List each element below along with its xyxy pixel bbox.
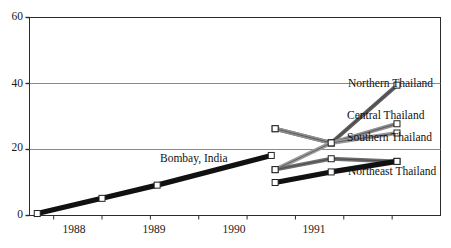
chart-container: 0 20 40 60 1988 1989 1990 1991 Bombay, I… [0,0,451,248]
data-point-marker [34,211,40,217]
data-point-marker [268,152,274,158]
x-axis-tick-1988: 1988 [44,223,104,235]
series-label-northeast: Northeast Thailand [348,165,436,177]
y-axis-tick-60: 60 [1,11,23,22]
data-point-marker [272,167,278,173]
data-point-marker [99,195,105,201]
y-axis-tick-0: 0 [1,209,23,220]
series-label-southern: Southern Thailand [347,131,432,143]
series-label-northern: Northern Thailand [348,77,433,89]
x-axis-tick-1989: 1989 [124,223,184,235]
line-chart-svg [0,0,451,248]
data-point-marker [272,126,278,132]
series-label-central: Central Thailand [347,109,424,121]
x-axis-tick-1990: 1990 [204,223,264,235]
y-axis-tick-40: 40 [1,78,23,89]
data-point-marker [394,121,400,127]
data-point-marker [154,182,160,188]
data-point-marker [328,140,334,146]
data-point-marker [328,156,334,162]
data-point-marker [394,158,400,164]
data-point-marker [328,169,334,175]
data-point-marker [272,180,278,186]
y-axis-tick-20: 20 [1,142,23,153]
x-axis-tick-1991: 1991 [284,223,344,235]
series-label-bombay: Bombay, India [160,152,228,164]
